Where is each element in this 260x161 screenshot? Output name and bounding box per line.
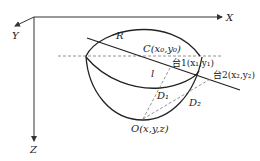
y-axis (15, 17, 34, 26)
distance1-label: D₁ (156, 90, 169, 101)
station1-label: 台1(x₁,y₁) (172, 57, 214, 68)
y-axis-label: Y (12, 30, 20, 41)
origin-point-label: O(x,y,z) (131, 123, 169, 134)
sphere-diagram: X Y Z R C(x₀,y₀) 台1(x₁,y₁) 台2(x₂,y₂) l D… (0, 0, 260, 161)
station2-label: 台2(x₂,y₂) (213, 69, 255, 80)
line-l-label: l (151, 68, 154, 79)
radius-label: R (115, 30, 124, 41)
z-axis-label: Z (29, 144, 38, 155)
distance2-label: D₂ (188, 97, 201, 108)
x-axis-label: X (225, 12, 234, 23)
center-label: C(x₀,y₀) (143, 43, 181, 54)
